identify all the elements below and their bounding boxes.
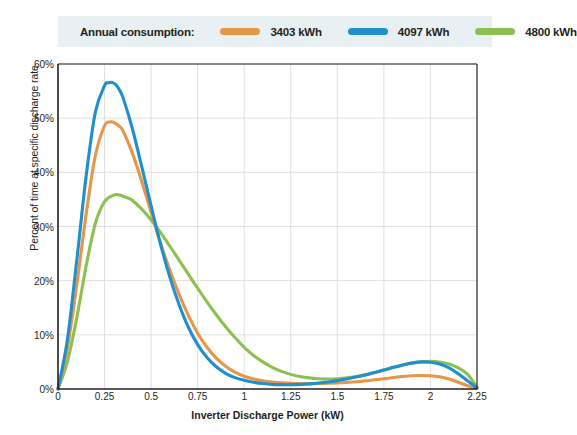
x-tick-label: 0.5 xyxy=(144,391,158,402)
x-tick-label: 2.25 xyxy=(467,391,486,402)
y-tick-label: 0% xyxy=(2,384,54,395)
series-line-4800-kwh xyxy=(58,195,477,389)
legend-item-label: 4800 kWh xyxy=(525,26,576,38)
y-axis-ticks: 0%10%20%30%40%50%60% xyxy=(0,0,54,435)
x-tick-label: 1 xyxy=(241,391,247,402)
x-axis-label: Inverter Discharge Power (kW) xyxy=(58,409,477,421)
x-tick-label: 0 xyxy=(55,391,61,402)
x-tick-label: 0.75 xyxy=(188,391,207,402)
x-tick-label: 1.5 xyxy=(330,391,344,402)
x-tick-label: 1.75 xyxy=(374,391,393,402)
x-tick-label: 0.25 xyxy=(95,391,114,402)
y-tick-label: 10% xyxy=(2,329,54,340)
x-tick-label: 1.25 xyxy=(281,391,300,402)
x-tick-label: 2 xyxy=(428,391,434,402)
series-line-3403-kwh xyxy=(58,122,477,389)
y-axis-label: Percent of time at specific discharge ra… xyxy=(28,38,40,278)
